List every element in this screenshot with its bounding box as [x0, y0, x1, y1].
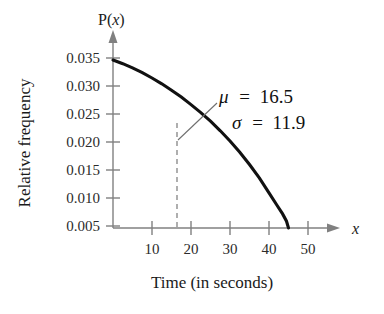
statistics-annotations: μ = 16.5 σ = 11.9 [218, 86, 305, 133]
y-tick-label-0.025: 0.025 [66, 106, 100, 122]
x-tick-labels: 10 20 30 40 50 [145, 241, 316, 257]
y-axis-arrowhead [109, 30, 118, 43]
x-tick-label-50: 50 [301, 241, 316, 257]
x-axis-title: Time (in seconds) [151, 273, 273, 292]
chart-container: 0.035 0.030 0.025 0.020 0.015 0.010 0.00… [0, 0, 384, 314]
x-axis-arrowhead [327, 224, 340, 233]
y-tick-label-0.020: 0.020 [66, 134, 100, 150]
relative-frequency-chart: 0.035 0.030 0.025 0.020 0.015 0.010 0.00… [0, 0, 384, 314]
x-tick-label-40: 40 [262, 241, 277, 257]
stddev-value: 11.9 [273, 112, 306, 133]
sigma-symbol: σ [232, 112, 242, 133]
mu-symbol: μ [218, 86, 229, 107]
y-axis-title: Relative frequency [15, 78, 34, 207]
stddev-annotation: σ = 11.9 [232, 112, 305, 133]
mean-annotation: μ = 16.5 [218, 86, 293, 107]
y-axis-name-close: ) [119, 11, 124, 29]
x-tick-label-20: 20 [184, 241, 199, 257]
y-axis-name: P(x) [98, 11, 125, 29]
x-tick-label-10: 10 [145, 241, 160, 257]
y-axis-name-p: P( [98, 11, 112, 29]
y-axis-name-x: x [111, 11, 119, 28]
y-tick-label-0.035: 0.035 [66, 50, 100, 66]
mean-equals: = [239, 86, 250, 107]
mean-value: 16.5 [260, 86, 293, 107]
x-axis-name: x [351, 220, 359, 237]
y-tick-label-0.030: 0.030 [66, 78, 100, 94]
stddev-equals: = [252, 112, 263, 133]
x-axis [113, 224, 340, 233]
x-tick-label-30: 30 [223, 241, 238, 257]
y-tick-labels: 0.035 0.030 0.025 0.020 0.015 0.010 0.00… [66, 50, 100, 234]
y-tick-label-0.010: 0.010 [66, 190, 100, 206]
y-tick-label-0.015: 0.015 [66, 162, 100, 178]
y-tick-label-0.005: 0.005 [66, 218, 100, 234]
